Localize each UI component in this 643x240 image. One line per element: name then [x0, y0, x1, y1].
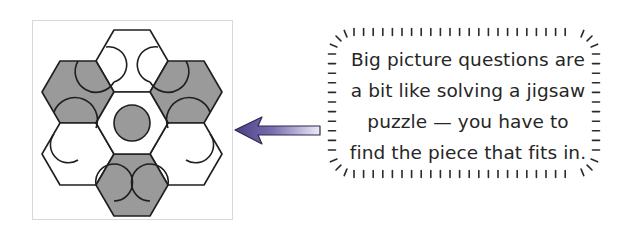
callout-line-3: puzzle — you have to: [330, 106, 606, 137]
left-arrow-icon: [232, 113, 324, 149]
callout-line-1: Big picture questions are: [330, 44, 606, 75]
hexagon-puzzle-illustration: [32, 20, 233, 220]
callout-line-2: a bit like solving a jigsaw: [330, 75, 606, 106]
callout-text: Big picture questions are a bit like sol…: [330, 44, 606, 168]
center-circle: [114, 105, 150, 141]
callout-line-4: find the piece that fits in.: [330, 137, 606, 168]
